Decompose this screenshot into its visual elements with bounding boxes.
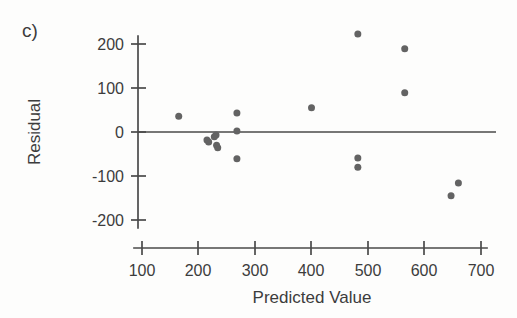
y-tick-label-200: 200 (97, 36, 124, 53)
data-point (233, 155, 240, 162)
x-tick-label-700: 700 (468, 262, 495, 279)
data-point (175, 113, 182, 120)
x-tick-label-300: 300 (242, 262, 269, 279)
data-point (233, 128, 240, 135)
y-tick-label-100: 100 (97, 80, 124, 97)
data-point (455, 180, 462, 187)
data-point (354, 154, 361, 161)
scatter-plot: 200 100 0 -100 -200 100 200 300 400 500 … (0, 0, 517, 318)
data-point (233, 110, 240, 117)
x-tick-label-500: 500 (355, 262, 382, 279)
x-tick-label-100: 100 (129, 262, 156, 279)
figure-root: c) 200 100 0 -100 -20 (0, 0, 517, 318)
data-point (308, 104, 315, 111)
data-point (213, 132, 220, 139)
data-points-layer (175, 30, 462, 199)
y-axis-title: Residual (25, 99, 44, 165)
x-axis-title: Predicted Value (253, 288, 372, 307)
data-point (214, 144, 221, 151)
y-tick-label-neg200: -200 (92, 212, 124, 229)
data-point (401, 89, 408, 96)
data-point (205, 139, 212, 146)
x-tick-label-200: 200 (185, 262, 212, 279)
y-tick-label-neg100: -100 (92, 168, 124, 185)
data-point (354, 30, 361, 37)
data-point (354, 164, 361, 171)
data-point (401, 45, 408, 52)
data-point (448, 192, 455, 199)
y-tick-label-0: 0 (115, 124, 124, 141)
x-tick-label-400: 400 (298, 262, 325, 279)
x-tick-label-600: 600 (411, 262, 438, 279)
